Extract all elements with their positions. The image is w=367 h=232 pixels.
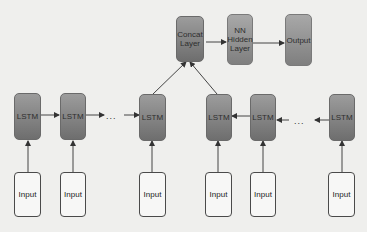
backward-ellipsis: ...	[294, 116, 305, 126]
input-node-1: Input	[14, 172, 41, 217]
forward-lstm-node-2: LSTM	[60, 93, 86, 140]
backward-lstm-node-3: LSTM	[329, 94, 355, 141]
nn-hidden-layer-node: NN Hidden Layer	[227, 14, 253, 65]
input-label: Input	[333, 190, 351, 199]
output-label: Output	[286, 36, 310, 45]
forward-lstm-node-1: LSTM	[14, 93, 41, 140]
lstm-label: LSTM	[331, 113, 352, 122]
input-label: Input	[64, 190, 82, 199]
forward-lstm-node-3: LSTM	[139, 94, 166, 141]
lstm-label: LSTM	[62, 112, 83, 121]
arrow-fwd-concat	[153, 62, 186, 94]
input-label: Input	[254, 190, 272, 199]
lstm-label: LSTM	[142, 113, 163, 122]
backward-lstm-node-1: LSTM	[206, 94, 232, 141]
forward-ellipsis: ...	[106, 111, 117, 121]
diagram-canvas: Concat Layer NN Hidden Layer Output LSTM…	[0, 0, 367, 232]
input-node-6: Input	[328, 172, 355, 217]
arrow-bwd-concat	[190, 62, 217, 94]
input-label: Input	[210, 190, 228, 199]
input-node-5: Input	[250, 172, 276, 217]
concat-layer-node: Concat Layer	[176, 16, 204, 62]
lstm-label: LSTM	[17, 112, 38, 121]
lstm-label: LSTM	[252, 113, 273, 122]
backward-lstm-node-2: LSTM	[250, 94, 276, 141]
concat-layer-label: Concat Layer	[177, 30, 203, 48]
input-label: Input	[19, 190, 37, 199]
input-label: Input	[144, 190, 162, 199]
input-node-3: Input	[139, 172, 166, 217]
nn-hidden-layer-label: NN Hidden Layer	[227, 26, 252, 53]
input-node-2: Input	[60, 172, 86, 217]
output-node: Output	[285, 14, 312, 66]
input-node-4: Input	[205, 172, 232, 217]
lstm-label: LSTM	[208, 113, 229, 122]
